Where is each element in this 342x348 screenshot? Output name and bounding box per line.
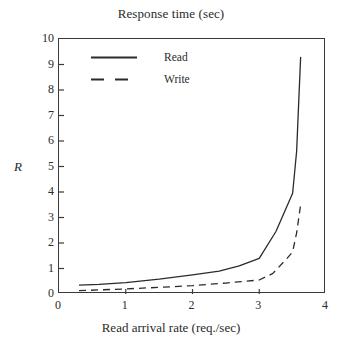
y-tick-label-3: 3: [30, 211, 54, 223]
x-tick-label-0: 0: [45, 299, 71, 311]
x-tick-label-1: 1: [112, 299, 138, 311]
legend-label-read: Read: [164, 50, 188, 64]
plot-area: Read Write: [58, 38, 325, 293]
x-tick-label-3: 3: [245, 299, 271, 311]
y-tick-label-4: 4: [30, 185, 54, 197]
chart-figure: Response time (sec) R 012345678910 Read …: [0, 0, 342, 348]
legend-swatch-solid-line-icon: [91, 56, 137, 59]
x-tick-label-2: 2: [179, 299, 205, 311]
y-tick-label-7: 7: [30, 109, 54, 121]
legend-swatch-dashed-line-icon: [91, 78, 137, 81]
y-tick-label-2: 2: [30, 236, 54, 248]
axis-tick-marks: [59, 65, 259, 295]
x-axis-tick-labels: 01234: [58, 299, 325, 315]
legend-label-write: Write: [164, 72, 190, 86]
y-tick-label-9: 9: [30, 58, 54, 70]
y-tick-label-6: 6: [30, 134, 54, 146]
y-tick-label-0: 0: [30, 287, 54, 299]
y-axis-tick-labels: 012345678910: [26, 38, 54, 293]
y-axis-title: R: [14, 159, 22, 175]
chart-title: Response time (sec): [0, 6, 342, 22]
x-axis-title: Read arrival rate (req./sec): [0, 320, 342, 336]
y-tick-label-1: 1: [30, 262, 54, 274]
x-tick-label-4: 4: [312, 299, 338, 311]
series-line-write: [79, 205, 301, 291]
y-tick-label-5: 5: [30, 160, 54, 172]
chart-legend: Read Write: [91, 50, 251, 94]
y-tick-label-10: 10: [30, 32, 54, 44]
y-tick-label-8: 8: [30, 83, 54, 95]
legend-item-write: Write: [91, 72, 251, 94]
legend-item-read: Read: [91, 50, 251, 72]
